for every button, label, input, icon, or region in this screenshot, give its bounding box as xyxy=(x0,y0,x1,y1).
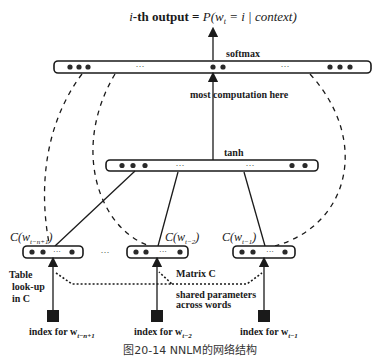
svg-text:···: ··· xyxy=(281,61,290,71)
svg-text:···: ··· xyxy=(246,160,255,170)
dashed-connection-outer xyxy=(45,74,82,248)
index-square-2 xyxy=(151,310,163,322)
embedding-box-1: ··· xyxy=(23,246,83,258)
tanh-layer: ··· ··· xyxy=(106,160,318,171)
computation-label: most computation here xyxy=(190,89,289,100)
svg-text:···: ··· xyxy=(159,247,167,256)
softmax-layer: ··· ··· xyxy=(54,61,371,73)
embedding-box-3: ··· xyxy=(233,246,295,258)
softmax-label: softmax xyxy=(226,48,260,59)
tanh-label: tanh xyxy=(224,147,244,158)
figure-caption: 图20-14 NNLM的网络结构 xyxy=(123,343,257,357)
emb1-to-tanh xyxy=(55,171,135,246)
nnlm-diagram: i-th output = P(wt = i | context) ··· ··… xyxy=(0,0,380,360)
embedding-label-3: C(wt−1) xyxy=(222,230,256,246)
between-ellipsis: ··· xyxy=(101,247,110,257)
svg-text:···: ··· xyxy=(266,247,274,256)
svg-text:···: ··· xyxy=(176,160,185,170)
svg-text:···: ··· xyxy=(53,247,61,256)
output-label: i-th output = P(wt = i | context) xyxy=(129,9,297,26)
shared-parameters-label: shared parameters across words xyxy=(176,289,259,310)
index-label-1: index for wt−n+1 xyxy=(29,326,95,340)
index-label-3: index for wt−1 xyxy=(240,326,298,340)
index-label-2: index for wt−2 xyxy=(134,326,192,340)
embedding-box-2: ··· xyxy=(127,246,188,258)
shared-parameters-line xyxy=(56,272,262,284)
index-square-3 xyxy=(258,310,270,322)
matrix-c-label: Matrix C xyxy=(176,268,216,279)
table-lookup-label: Table look-up in C xyxy=(9,269,47,304)
embedding-label-2: C(wt−2) xyxy=(165,230,199,246)
svg-text:···: ··· xyxy=(136,61,145,71)
index-square-1 xyxy=(47,310,59,322)
embedding-label-1: C(wt−n+1) xyxy=(10,230,52,246)
